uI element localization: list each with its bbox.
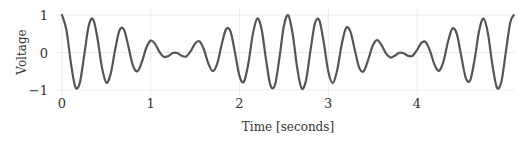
voltage-time-chart: 10−1 01234 Voltage Time [seconds] (0, 0, 532, 142)
x-axis-label: Time [seconds] (242, 120, 334, 134)
x-tick-label: 0 (58, 96, 66, 111)
x-tick-label: 1 (147, 96, 155, 111)
y-tick-label: 0 (40, 46, 48, 61)
y-axis-label: Voltage (15, 29, 29, 75)
y-tick-label: 1 (40, 8, 48, 23)
y-tick-label: −1 (29, 83, 48, 98)
x-tick-label: 2 (235, 96, 243, 111)
y-axis-ticks: 10−1 (29, 8, 48, 98)
x-tick-label: 3 (324, 96, 332, 111)
x-tick-label: 4 (413, 96, 421, 111)
x-axis-ticks: 01234 (58, 96, 421, 111)
